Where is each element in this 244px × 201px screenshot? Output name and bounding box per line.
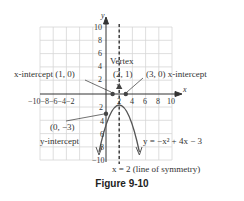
y-tick-neg6: 6 xyxy=(100,130,104,139)
x-tick-6: 6 xyxy=(143,97,147,106)
y-intercept-point xyxy=(104,112,108,116)
x-tick-4: 4 xyxy=(130,97,134,106)
x-tick-2: 2 xyxy=(117,97,121,106)
x-intercept-right-label: (3, 0) x-intercept xyxy=(146,69,207,79)
figure-caption: Figure 9-10 xyxy=(0,178,244,189)
y-tick-neg8: 8 xyxy=(100,143,104,152)
key-points xyxy=(104,83,128,116)
equation-label: y = −x² + 4x − 3 xyxy=(143,136,203,146)
y-tick-neg2: 2 xyxy=(99,103,103,112)
symmetry-label: x = 2 (line of symmetry) xyxy=(112,164,200,174)
y-tick-6: 6 xyxy=(98,49,102,58)
annotations: Vertex (2, 1) x-intercept (1, 0) (3, 0) … xyxy=(14,56,207,174)
x-tick-8: 8 xyxy=(156,97,160,106)
parabola-graph: x y −10−8−6−4−2 2 4 6 8 10 10 8 6 4 2 2 … xyxy=(0,0,244,201)
x-intercept-1-point xyxy=(110,92,114,96)
x-tick-10: 10 xyxy=(167,97,175,106)
vertex-label: Vertex xyxy=(110,56,134,66)
y-tick-10: 10 xyxy=(94,23,102,32)
y-tick-8: 8 xyxy=(98,36,102,45)
vertex-marker xyxy=(116,83,122,89)
y-tick-4: 4 xyxy=(98,62,102,71)
y-tick-2: 2 xyxy=(98,75,102,84)
y-intercept-label: y-intercept xyxy=(40,136,79,146)
y-tick-neg4: 4 xyxy=(100,117,104,126)
x-axis-label: x xyxy=(182,85,187,94)
y-axis-label: y xyxy=(100,11,105,20)
y-intercept-coords: (0, −3) xyxy=(50,122,75,132)
x-intercept-3-point xyxy=(124,92,128,96)
x-intercept-left-label: x-intercept (1, 0) xyxy=(14,69,75,79)
vertex-coords: (2, 1) xyxy=(113,69,133,79)
x-neg-ticks: −10−8−6−4−2 xyxy=(28,97,75,106)
y-tick-neg10: −10 xyxy=(92,156,105,165)
